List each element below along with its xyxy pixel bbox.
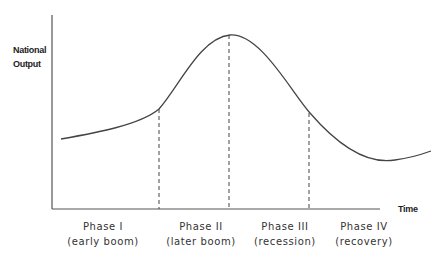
x-axis-label: Time [398,204,418,214]
phase-4-desc: (recovery) [319,234,409,249]
phase-3-name: Phase III [240,219,330,234]
phase-4-name: Phase IV [319,219,409,234]
phase-4-label: Phase IV (recovery) [319,219,409,249]
phase-1-label: Phase I (early boom) [58,219,148,249]
phase-2-name: Phase II [156,219,246,234]
phase-1-desc: (early boom) [58,234,148,249]
y-axis-label-line1: National [13,45,46,55]
phase-3-label: Phase III (recession) [240,219,330,249]
phase-2-desc: (later boom) [156,234,246,249]
phase-1-name: Phase I [58,219,148,234]
y-axis-label-line2: Output [13,59,41,69]
phase-3-desc: (recession) [240,234,330,249]
output-curve [61,35,431,161]
phase-2-label: Phase II (later boom) [156,219,246,249]
